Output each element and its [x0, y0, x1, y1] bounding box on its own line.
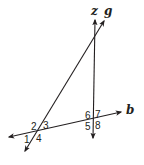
line-label-g: g: [104, 4, 112, 18]
geometry-diagram: z g b 2 3 1 4 6 7 5 8: [0, 0, 144, 165]
angle-label-5: 5: [85, 121, 91, 132]
angle-label-7: 7: [95, 109, 101, 120]
angle-label-1: 1: [24, 134, 30, 145]
angle-label-3: 3: [43, 120, 49, 131]
angle-label-2: 2: [31, 121, 37, 132]
line-label-b: b: [126, 103, 134, 117]
angle-label-4: 4: [36, 133, 42, 144]
line-label-z: z: [90, 4, 99, 18]
angle-label-6: 6: [85, 110, 91, 121]
angle-label-8: 8: [95, 120, 101, 131]
line-g: [25, 21, 104, 151]
